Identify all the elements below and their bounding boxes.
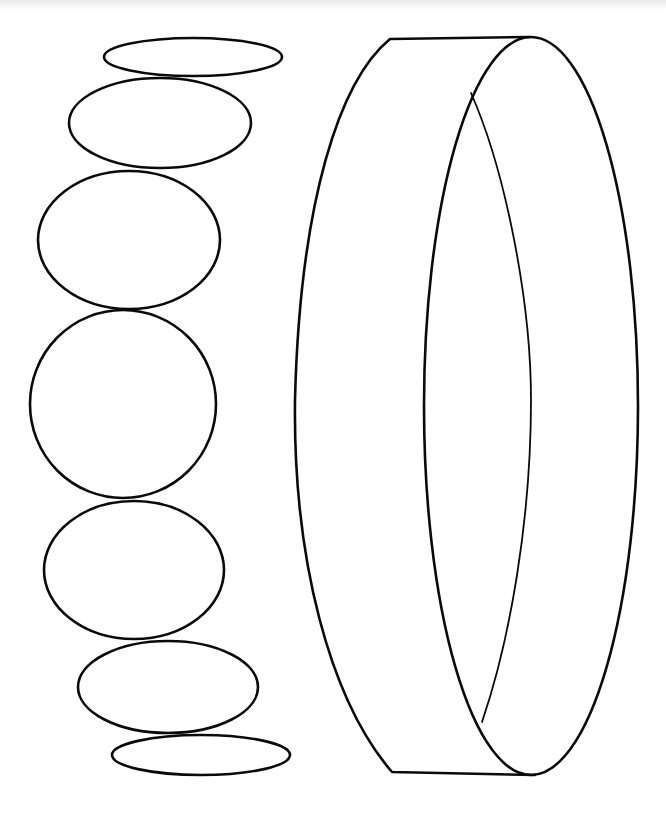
stack-ellipse-3 — [38, 171, 220, 309]
ellipse-stack — [30, 38, 290, 775]
stack-ellipse-7 — [112, 735, 290, 775]
stack-ellipse-6 — [78, 641, 258, 733]
stack-ellipse-2 — [69, 78, 251, 168]
stack-ellipse-1 — [104, 38, 282, 76]
stack-ellipse-5 — [44, 501, 224, 639]
drawing-page — [0, 0, 666, 820]
ring-band — [295, 37, 638, 775]
line-drawing — [0, 0, 666, 820]
ring-inner-curve — [471, 93, 531, 722]
stack-ellipse-4 — [30, 310, 216, 498]
